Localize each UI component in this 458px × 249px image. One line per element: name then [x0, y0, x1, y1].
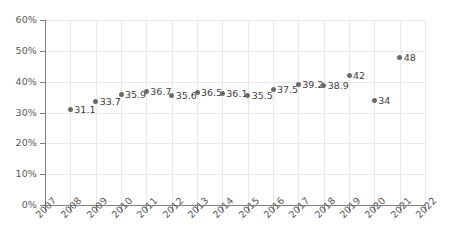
- data-point[interactable]: [245, 93, 250, 98]
- data-point-label: 31.1: [74, 105, 95, 115]
- gridline-vertical: [248, 20, 249, 205]
- data-point[interactable]: [321, 83, 326, 88]
- gridline-vertical: [349, 20, 350, 205]
- data-point[interactable]: [220, 91, 225, 96]
- y-axis-tick-mark: [40, 82, 45, 83]
- gridline-vertical: [222, 20, 223, 205]
- y-axis-line: [45, 20, 46, 206]
- gridline-vertical: [298, 20, 299, 205]
- data-point-label: 37.5: [277, 85, 298, 95]
- y-axis-tick-label: 30%: [16, 108, 37, 118]
- y-axis-tick-mark: [40, 174, 45, 175]
- data-point[interactable]: [119, 92, 124, 97]
- gridline-horizontal: [45, 51, 425, 52]
- data-point[interactable]: [169, 93, 174, 98]
- y-axis-tick-mark: [40, 51, 45, 52]
- data-point[interactable]: [144, 89, 149, 94]
- gridline-vertical: [400, 20, 401, 205]
- gridline-horizontal: [45, 82, 425, 83]
- data-point-label: 35.5: [252, 91, 273, 101]
- gridline-horizontal: [45, 113, 425, 114]
- y-axis-tick-mark: [40, 143, 45, 144]
- gridline-vertical: [146, 20, 147, 205]
- data-point[interactable]: [296, 82, 301, 87]
- data-point-label: 35.9: [125, 90, 146, 100]
- data-point[interactable]: [347, 73, 352, 78]
- data-point-label: 35.6: [176, 91, 197, 101]
- scatter-chart: 31.133.735.936.735.636.536.135.537.539.2…: [0, 0, 458, 249]
- data-point-label: 38.9: [328, 81, 349, 91]
- gridline-vertical: [96, 20, 97, 205]
- data-point[interactable]: [372, 98, 377, 103]
- data-point-label: 34: [378, 96, 390, 106]
- x-axis-tick-label: 2007: [34, 196, 58, 220]
- gridline-vertical: [197, 20, 198, 205]
- y-axis-tick-label: 50%: [16, 46, 37, 56]
- gridline-vertical: [70, 20, 71, 205]
- data-point[interactable]: [271, 87, 276, 92]
- data-point[interactable]: [195, 90, 200, 95]
- gridline-vertical: [425, 20, 426, 205]
- data-point[interactable]: [93, 99, 98, 104]
- y-axis-tick-mark: [40, 113, 45, 114]
- data-point[interactable]: [397, 55, 402, 60]
- gridline-horizontal: [45, 174, 425, 175]
- gridline-horizontal: [45, 143, 425, 144]
- y-axis-tick-label: 0%: [22, 200, 37, 210]
- plot-area: 31.133.735.936.735.636.536.135.537.539.2…: [45, 20, 425, 205]
- gridline-horizontal: [45, 20, 425, 21]
- y-axis-tick-label: 60%: [16, 15, 37, 25]
- y-axis-tick-label: 10%: [16, 169, 37, 179]
- y-axis-tick-label: 40%: [16, 77, 37, 87]
- data-point-label: 42: [353, 71, 365, 81]
- data-point[interactable]: [68, 107, 73, 112]
- data-point-label: 48: [404, 53, 416, 63]
- gridline-vertical: [273, 20, 274, 205]
- gridline-vertical: [374, 20, 375, 205]
- data-point-label: 33.7: [100, 97, 121, 107]
- gridline-vertical: [121, 20, 122, 205]
- y-axis-tick-label: 20%: [16, 138, 37, 148]
- gridline-vertical: [324, 20, 325, 205]
- gridline-vertical: [172, 20, 173, 205]
- data-point-label: 36.5: [201, 88, 222, 98]
- y-axis-tick-mark: [40, 20, 45, 21]
